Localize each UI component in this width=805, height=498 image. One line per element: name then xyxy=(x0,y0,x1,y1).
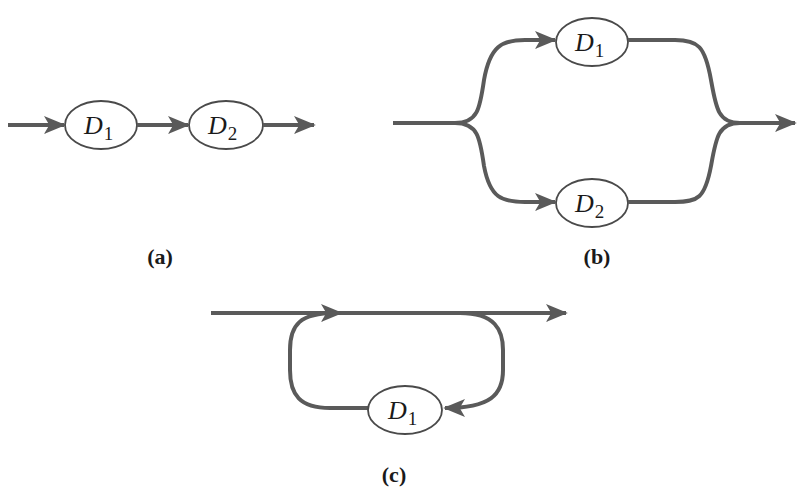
node-symbol: D xyxy=(387,396,407,425)
node-symbol: D xyxy=(574,189,594,218)
diagram-canvas: D1 D2 D1 D2 xyxy=(0,0,805,498)
caption-a: (a) xyxy=(147,244,173,270)
panel-a-node-d2: D2 xyxy=(189,101,263,149)
node-subscript: 1 xyxy=(408,408,418,429)
panel-c-loop-right xyxy=(445,313,503,408)
node-subscript: 2 xyxy=(228,123,238,144)
panel-b-lower-branch-in xyxy=(455,123,555,202)
node-symbol: D xyxy=(83,111,103,140)
node-symbol: D xyxy=(574,28,594,57)
panel-b-node-d1: D1 xyxy=(556,18,628,66)
node-symbol: D xyxy=(207,111,227,140)
panel-b-upper-branch-out xyxy=(628,40,740,123)
panel-c-loop-left xyxy=(290,313,368,408)
panel-b-node-d2: D2 xyxy=(556,179,628,227)
panel-c-node-d1: D1 xyxy=(368,386,442,434)
node-subscript: 1 xyxy=(104,123,114,144)
node-subscript: 1 xyxy=(595,40,605,61)
panel-b-parallel: D1 D2 xyxy=(393,18,795,227)
panel-a-series: D1 D2 xyxy=(8,101,314,149)
panel-b-upper-branch-in xyxy=(455,40,555,123)
caption-c: (c) xyxy=(382,462,406,488)
node-subscript: 2 xyxy=(595,201,605,222)
caption-b: (b) xyxy=(584,244,611,270)
panel-c-feedback: D1 xyxy=(211,313,566,434)
panel-a-node-d1: D1 xyxy=(65,101,137,149)
panel-b-lower-branch-out xyxy=(628,123,740,202)
